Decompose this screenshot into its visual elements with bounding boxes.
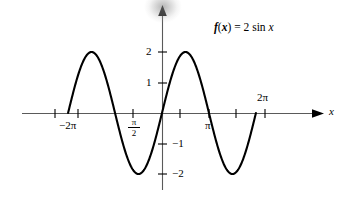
fraction-denominator: 2 (128, 128, 140, 138)
fraction-numerator: π (128, 118, 140, 128)
sine-graph-figure: f(x) = 2 sin x x −2π π 2π π 2 2 1 −1 −2 (0, 0, 352, 197)
x-axis-variable-label: x (329, 106, 334, 117)
y-axis-arrowhead (158, 5, 167, 16)
y-tick-label-neg1: −1 (172, 138, 184, 149)
y-tick-label-2: 2 (146, 46, 152, 57)
x-tick-label-pi-over-2: π 2 (128, 118, 140, 139)
x-tick-label-neg2pi: −2π (59, 120, 76, 131)
x-axis-arrowhead (312, 109, 324, 118)
x-tick-label-pi: π (205, 120, 211, 131)
fn-equals: = (231, 21, 243, 33)
x-tick-label-2pi: 2π (257, 92, 268, 103)
y-tick-label-neg2: −2 (172, 168, 184, 179)
fn-argument: x (268, 21, 273, 33)
fn-trig: sin (249, 21, 268, 33)
y-tick-label-1: 1 (146, 77, 152, 88)
function-equation-label: f(x) = 2 sin x (214, 22, 274, 34)
